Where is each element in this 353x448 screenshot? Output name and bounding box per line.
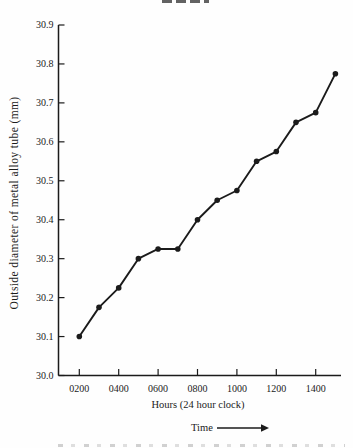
y-tick-label: 30.6 [36, 136, 54, 147]
data-point [195, 217, 201, 223]
line-chart-canvas: 30.030.130.230.330.430.530.630.730.830.9… [0, 0, 353, 448]
x-tick-label: 1400 [306, 383, 326, 394]
time-annotation-label: Time [191, 422, 213, 433]
time-arrow-icon [216, 423, 270, 433]
scanned-line-chart-figure: Outside diameter of metal alloy tube (mm… [0, 0, 353, 448]
data-point [274, 149, 280, 155]
data-point [293, 120, 299, 126]
cropped-text-remnant-bottom [58, 444, 345, 447]
data-point [155, 246, 161, 252]
y-tick-label: 30.7 [36, 97, 54, 108]
series-line [79, 74, 335, 337]
x-tick-label: 1000 [227, 383, 247, 394]
data-point [96, 305, 102, 311]
y-tick-label: 30.1 [36, 331, 54, 342]
data-point [254, 159, 260, 165]
y-tick-label: 30.3 [36, 253, 54, 264]
x-tick-label: 1200 [266, 383, 286, 394]
x-tick-label: 0600 [148, 383, 168, 394]
data-point [77, 334, 83, 340]
data-point [136, 256, 142, 262]
data-point [333, 71, 339, 77]
x-tick-label: 0200 [69, 383, 89, 394]
data-point [116, 285, 122, 291]
y-tick-label: 30.0 [36, 370, 54, 381]
x-tick-label: 0400 [109, 383, 129, 394]
data-point [214, 197, 220, 203]
y-tick-label: 30.5 [36, 175, 54, 186]
x-tick-label: 0800 [188, 383, 208, 394]
x-axis-title: Hours (24 hour clock) [58, 399, 338, 410]
y-tick-label: 30.8 [36, 58, 54, 69]
y-tick-label: 30.2 [36, 292, 54, 303]
data-point [175, 246, 181, 252]
y-tick-label: 30.9 [36, 19, 54, 30]
y-tick-label: 30.4 [36, 214, 54, 225]
time-annotation: Time [191, 421, 270, 434]
data-point [234, 188, 240, 194]
data-point [313, 110, 319, 116]
